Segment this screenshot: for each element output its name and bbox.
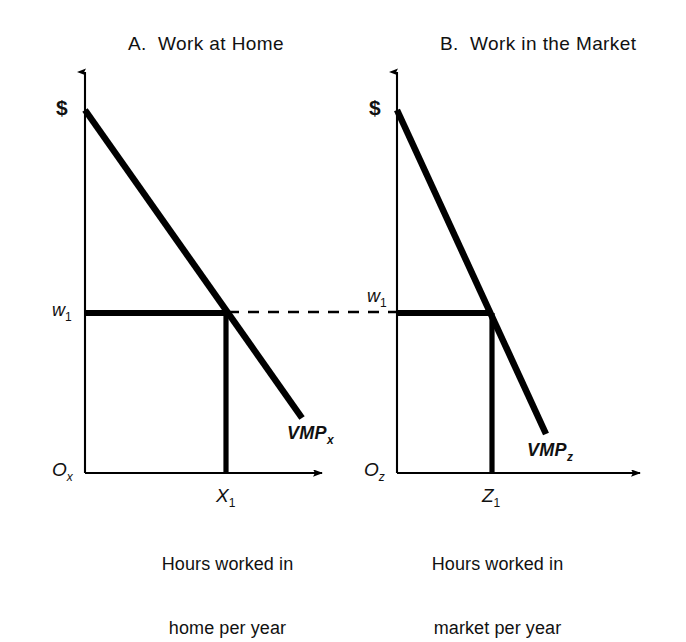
- panel-a-quantity-label-text: X: [216, 485, 229, 506]
- panel-a-caption-line-1: Hours worked in: [120, 554, 335, 575]
- panel-b-quantity-label-sub: 1: [494, 496, 501, 510]
- panel-a-y-axis-label: $: [56, 96, 68, 121]
- panel-a-quantity-label: X1: [216, 485, 235, 510]
- panel-b-wage-label: w1: [367, 286, 387, 310]
- panel-b-y-axis-label: $: [369, 96, 381, 121]
- panel-a-curve-label-text: VMP: [287, 423, 327, 443]
- panel-a-origin-label: Ox: [52, 459, 73, 484]
- panel-a-wage-label: w1: [52, 300, 72, 324]
- panel-b-curve-label-sub: z: [567, 450, 573, 464]
- panel-b-caption-line-2: market per year: [390, 618, 605, 639]
- panel-b-caption-line-1: Hours worked in: [390, 554, 605, 575]
- panel-a-curve-label-sub: x: [327, 433, 334, 447]
- panel-a-wage-label-text: w: [52, 300, 65, 320]
- panel-b-wage-label-text: w: [367, 286, 380, 306]
- panel-b-x-axis-caption: Hours worked in market per year: [390, 512, 605, 642]
- panel-a-origin-label-sub: x: [67, 470, 73, 484]
- panel-b-curve-label-text: VMP: [527, 440, 567, 460]
- panel-a-wage-label-sub: 1: [65, 310, 72, 324]
- panel-a-caption-line-2: home per year: [120, 618, 335, 639]
- panel-b-wage-label-sub: 1: [380, 296, 387, 310]
- panel-b-quantity-label: Z1: [482, 485, 500, 510]
- panel-a-title: A. Work at Home: [128, 33, 284, 55]
- panel-b-axes: [397, 72, 640, 473]
- panel-b-origin-label: Oz: [364, 459, 385, 484]
- panel-b-curve-label: VMPz: [527, 440, 573, 464]
- panel-b-curve-vmp-z: [397, 110, 546, 434]
- panel-b-quantity-label-text: Z: [482, 485, 494, 506]
- panel-b-title: B. Work in the Market: [440, 33, 636, 55]
- panel-b-origin-label-text: O: [364, 459, 379, 480]
- panel-a-quantity-label-sub: 1: [229, 496, 236, 510]
- panel-a-axes: [85, 72, 322, 473]
- panel-b-origin-label-sub: z: [379, 470, 385, 484]
- panel-a-origin-label-text: O: [52, 459, 67, 480]
- panel-a-x-axis-caption: Hours worked in home per year: [120, 512, 335, 642]
- panel-a-curve-vmp-x: [85, 110, 302, 418]
- panel-a-curve-label: VMPx: [287, 423, 334, 447]
